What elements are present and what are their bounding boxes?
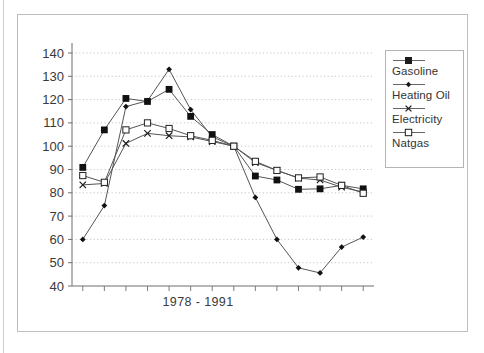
- legend-label-gasoline: Gasoline: [392, 65, 463, 78]
- legend-label-heating-oil: Heating Oil: [392, 89, 463, 102]
- legend-label-natgas: Natgas: [392, 137, 463, 150]
- scan-top-artifact: [0, 0, 484, 9]
- legend-label-electricity: Electricity: [392, 113, 463, 126]
- y-axis-tick-label: 100: [34, 140, 64, 153]
- page-edge-line: [3, 0, 4, 353]
- y-axis-tick-label: 120: [34, 93, 64, 106]
- y-axis-tick-label: 140: [34, 47, 64, 60]
- legend-entry-heating-oil: Heating Oil: [392, 80, 463, 102]
- small-diamond-marker-icon: [392, 80, 426, 89]
- y-axis-tick-label: 90: [34, 163, 64, 176]
- y-axis-tick-label: 130: [34, 70, 64, 83]
- legend-entry-gasoline: Gasoline: [392, 56, 463, 78]
- y-axis-tick-label: 60: [34, 233, 64, 246]
- y-axis-tick-label: 110: [34, 116, 64, 129]
- filled-square-marker-icon: [392, 56, 426, 65]
- legend-entry-natgas: Natgas: [392, 128, 463, 150]
- figure-frame: 405060708090100110120130140 Gasoline Hea…: [17, 14, 468, 332]
- y-axis-tick-label: 40: [34, 280, 64, 293]
- y-axis-tick-label: 80: [34, 186, 64, 199]
- x-axis-title: 1978 - 1991: [18, 295, 378, 309]
- legend-entry-electricity: Electricity: [392, 104, 463, 126]
- open-square-marker-icon: [392, 128, 426, 137]
- y-axis-tick-label: 70: [34, 210, 64, 223]
- x-cross-marker-icon: [392, 104, 426, 113]
- y-axis-tick-label: 50: [34, 256, 64, 269]
- chart-legend: Gasoline Heating Oil Electricity: [385, 50, 464, 168]
